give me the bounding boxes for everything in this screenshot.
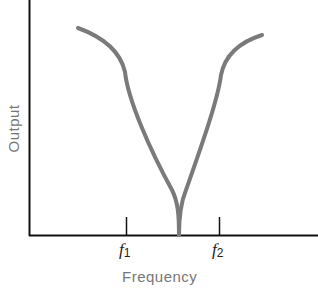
left-response-curve (78, 28, 179, 235)
plot-area (0, 0, 318, 292)
frequency-response-diagram: Output Frequency f1 f2 (0, 0, 318, 292)
tick-label-f2: f2 (212, 240, 223, 260)
tick-label-f1: f1 (119, 240, 130, 260)
right-response-curve (179, 35, 262, 235)
y-axis-label: Output (5, 104, 22, 154)
x-axis-label: Frequency (122, 268, 197, 285)
